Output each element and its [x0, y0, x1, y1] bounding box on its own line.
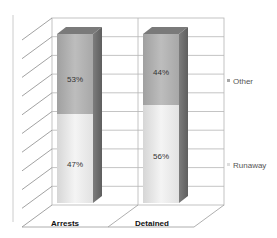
stacked-bar-chart: 53% 47% 44% 56% Arrests Detained Other R… — [0, 0, 277, 238]
bar-arrests-runaway-segment[interactable] — [57, 114, 93, 203]
category-label-arrests: Arrests — [51, 219, 80, 228]
bar-arrests[interactable]: 53% 47% — [57, 27, 102, 203]
bar-detained-runaway-label: 56% — [153, 152, 169, 161]
legend-label-other: Other — [233, 77, 253, 86]
bar-arrests-runaway-label: 47% — [67, 160, 83, 169]
legend-item-runaway[interactable]: Runaway — [227, 161, 266, 170]
legend-item-other[interactable]: Other — [227, 77, 253, 86]
bar-arrests-side — [93, 27, 102, 203]
bar-detained[interactable]: 44% 56% — [143, 27, 188, 203]
legend-swatch-other — [227, 79, 230, 82]
bar-arrests-other-label: 53% — [67, 75, 83, 84]
category-label-detained: Detained — [135, 219, 169, 228]
bar-detained-other-label: 44% — [153, 68, 169, 77]
legend: Other Runaway — [227, 77, 266, 170]
side-wall-gridlines — [22, 18, 52, 227]
bar-arrests-other-segment[interactable] — [57, 34, 93, 114]
legend-label-runaway: Runaway — [233, 161, 266, 170]
bar-detained-side — [179, 27, 188, 203]
legend-swatch-runaway — [227, 163, 230, 166]
